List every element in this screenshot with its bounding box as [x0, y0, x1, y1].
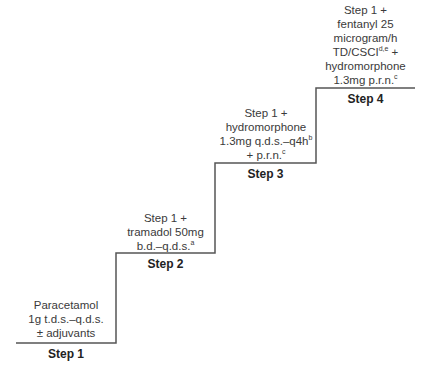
step-3-line-1: Step 1 + — [210, 106, 322, 120]
step-3-label: Step 3 — [215, 167, 316, 181]
step-2-line-2: tramadol 50mg — [116, 225, 215, 239]
step-4-line-5: hydromorphone — [312, 59, 419, 73]
step-4-line-6: 1.3mg p.r.n.c — [312, 73, 419, 87]
step-2-line-1: Step 1 + — [116, 211, 215, 225]
step-1-line-1: Paracetamol — [16, 298, 116, 312]
step-1-label: Step 1 — [16, 347, 116, 361]
step-3-line-2: hydromorphone — [210, 120, 322, 134]
step-2-description: Step 1 + tramadol 50mg b.d.–q.d.s.a — [116, 211, 215, 253]
step-1-line-3: ± adjuvants — [16, 326, 116, 340]
step-1-line-2: 1g t.d.s.–q.d.s. — [16, 312, 116, 326]
step-4-label: Step 4 — [316, 92, 415, 106]
step-4-description: Step 1 + fentanyl 25 microgram/h TD/CSCI… — [312, 3, 419, 87]
step-4-line-1: Step 1 + — [312, 3, 419, 17]
step-3-description: Step 1 + hydromorphone 1.3mg q.d.s.–q4hb… — [210, 106, 322, 162]
step-3-line-3: 1.3mg q.d.s.–q4hb — [210, 134, 322, 148]
step-4-line-4: TD/CSCId,e + — [312, 45, 419, 59]
step-1-description: Paracetamol 1g t.d.s.–q.d.s. ± adjuvants — [16, 298, 116, 340]
step-4-line-3: microgram/h — [312, 31, 419, 45]
step-2-label: Step 2 — [116, 257, 215, 271]
step-3-line-4: + p.r.n.c — [210, 148, 322, 162]
step-4-line-2: fentanyl 25 — [312, 17, 419, 31]
step-2-line-3: b.d.–q.d.s.a — [116, 239, 215, 253]
